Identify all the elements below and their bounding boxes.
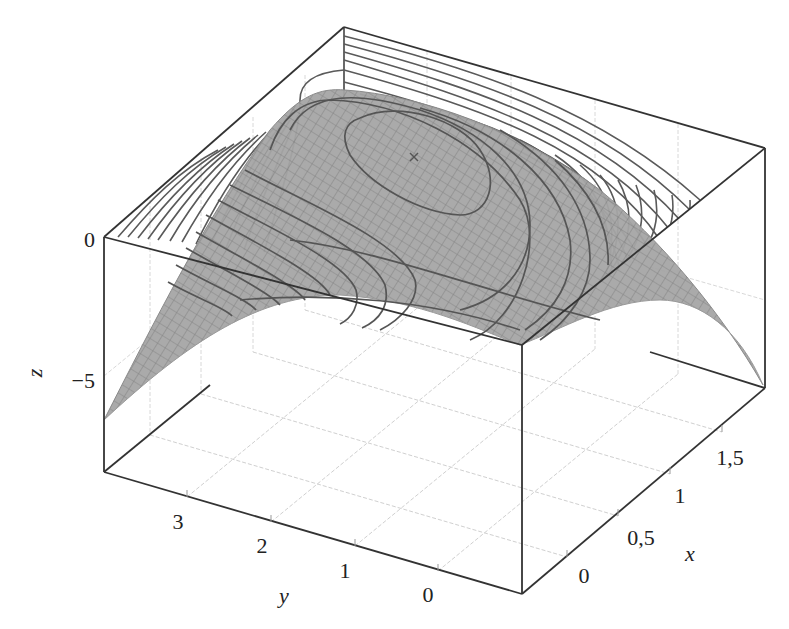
y-tick-0: 0 [423,582,434,607]
surface-plot: 0 −5 3 2 1 0 0 0,5 1 1,5 z y x [0,0,789,629]
x-tick-0: 0 [579,563,590,588]
z-axis-label: z [22,368,47,378]
z-tick-minus5: −5 [72,368,95,393]
x-tick-1: 1 [675,483,686,508]
y-tick-2: 2 [257,533,268,558]
z-tick-0: 0 [84,227,95,252]
surface-mesh [104,90,763,420]
x-tick-1-5: 1,5 [716,445,744,470]
y-tick-1: 1 [340,558,351,583]
x-axis-label: x [684,541,695,566]
x-tick-0-5: 0,5 [627,525,655,550]
y-tick-3: 3 [173,509,184,534]
y-axis-label: y [277,583,289,608]
